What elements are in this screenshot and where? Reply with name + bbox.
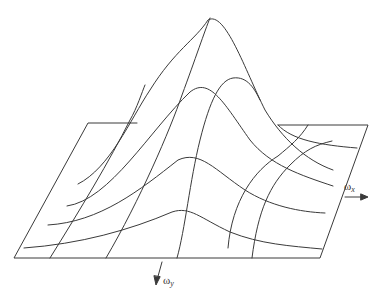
wx-subscript: x [351,185,355,194]
axis-label-wx: ωx [344,181,355,194]
x-curve-back [278,125,357,148]
axis-label-wy: ωy [163,275,174,288]
wy-subscript: y [170,279,174,288]
x-curve-1 [24,210,322,249]
axis-arrows [154,194,368,285]
wx-arrow-head-icon [361,194,368,200]
y-cross-sections [50,18,332,258]
y-curve-3 [177,78,260,258]
x-curve-2 [48,157,325,225]
plane-outline [14,123,368,258]
x-cross-sections [24,19,357,249]
y-curve-1 [50,85,145,258]
x-curve-3 [67,87,333,206]
y-curve-5 [252,141,332,258]
wy-arrow-head-icon [154,276,160,285]
base-plane [14,123,368,258]
surface-plot [0,0,382,296]
gaussian-surface-diagram: ωx ωy [0,0,382,296]
x-curve-peak [78,19,333,184]
